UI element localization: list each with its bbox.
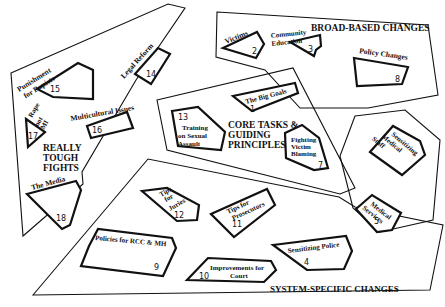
item-2-number: 2 bbox=[252, 47, 257, 56]
item-10-number: 10 bbox=[199, 272, 209, 281]
item-9-number: 9 bbox=[154, 263, 159, 272]
region-title-broad-based-changes: BROAD-BASED CHANGES bbox=[311, 23, 430, 33]
item-12-number: 12 bbox=[174, 211, 184, 220]
item-14-number: 14 bbox=[146, 70, 156, 79]
item-16-number: 16 bbox=[92, 126, 102, 135]
item-17-label-1: Rape bbox=[27, 102, 42, 119]
item-7-number: 7 bbox=[318, 161, 323, 170]
item-15-number: 15 bbox=[50, 85, 60, 94]
item-box-4[interactable] bbox=[273, 236, 352, 270]
svg-text:Rape: Rape bbox=[27, 102, 42, 119]
region-title-really-tough-fights: REALLY TOUGH FIGHTS bbox=[43, 143, 84, 173]
item-13-number: 13 bbox=[178, 113, 188, 122]
item-17-number: 17 bbox=[28, 132, 38, 141]
region-title-system-specific-changes: SYSTEM-SPECIFIC CHANGES bbox=[270, 284, 399, 294]
item-4-number: 4 bbox=[304, 258, 309, 267]
item-3-number: 3 bbox=[308, 45, 313, 54]
item-11-number: 11 bbox=[232, 220, 242, 229]
item-1-number: 1 bbox=[250, 105, 255, 114]
concept-map: Punishment for Rapists 15 Legal Reform 1… bbox=[0, 0, 445, 307]
item-18-number: 18 bbox=[56, 214, 66, 223]
item-8-number: 8 bbox=[395, 75, 400, 84]
item-5-number: 5 bbox=[374, 217, 379, 226]
